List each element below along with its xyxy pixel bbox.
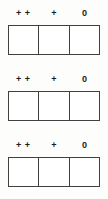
rating-label-double-plus: + +: [8, 74, 39, 85]
rating-label-single-plus: +: [39, 8, 70, 19]
rating-checkbox-zero[interactable]: [70, 158, 99, 186]
rating-checkbox-single-plus[interactable]: [39, 92, 69, 120]
rating-checkbox-row: [8, 25, 100, 55]
rating-labels: + + + 0: [8, 8, 100, 21]
rating-checkbox-single-plus[interactable]: [39, 26, 69, 54]
rating-checkbox-double-plus[interactable]: [9, 26, 39, 54]
rating-checkbox-row: [8, 91, 100, 121]
rating-checkbox-row: [8, 157, 100, 187]
rating-label-zero: 0: [69, 140, 100, 151]
rating-row-group: + + + 0: [8, 74, 100, 121]
rating-label-double-plus: + +: [8, 8, 39, 19]
rating-labels: + + + 0: [8, 140, 100, 153]
rating-checkbox-double-plus[interactable]: [9, 92, 39, 120]
rating-label-zero: 0: [69, 8, 100, 19]
rating-checkbox-zero[interactable]: [70, 26, 99, 54]
rating-labels: + + + 0: [8, 74, 100, 87]
rating-scale-diagram: + + + 0 + + + 0 + + + 0: [0, 0, 108, 199]
rating-label-single-plus: +: [39, 140, 70, 151]
rating-checkbox-zero[interactable]: [70, 92, 99, 120]
rating-checkbox-double-plus[interactable]: [9, 158, 39, 186]
rating-row-group: + + + 0: [8, 8, 100, 55]
rating-label-single-plus: +: [39, 74, 70, 85]
rating-label-double-plus: + +: [8, 140, 39, 151]
rating-label-zero: 0: [69, 74, 100, 85]
rating-row-group: + + + 0: [8, 140, 100, 187]
rating-checkbox-single-plus[interactable]: [39, 158, 69, 186]
